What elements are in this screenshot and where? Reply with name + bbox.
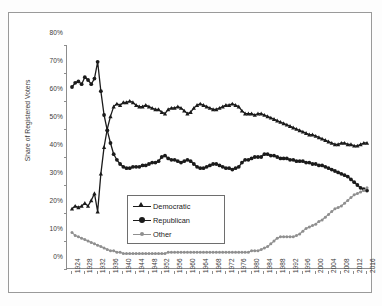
data-point [199,251,202,254]
data-point [89,198,93,202]
x-tick [315,271,316,274]
x-tick-label: 1984 [266,258,273,273]
y-tick [64,101,67,102]
data-point [253,249,256,252]
data-point [109,249,112,252]
chart-legend: Democratic Republican Other [127,195,225,244]
y-tick-label: 40% [29,141,63,148]
x-tick-label: 1940 [125,258,132,273]
triangle-marker-icon [132,201,152,211]
data-point [87,240,90,243]
data-point [80,82,84,86]
chart-page: 0%10%20%30%40%50%60%70%80% Share of Regi… [0,0,382,306]
y-tick [64,269,67,270]
data-point [83,75,87,79]
data-point [138,252,141,255]
data-point [224,251,227,254]
data-point [346,199,349,202]
data-point [119,251,122,254]
data-point [147,252,150,255]
data-point [240,161,244,165]
y-tick [64,45,67,46]
x-tick-label: 1972 [228,258,235,273]
x-tick-label: 1976 [240,258,247,273]
data-point [115,102,119,106]
data-point [311,224,314,227]
data-point [237,165,241,169]
x-tick-label: 2016 [369,258,376,273]
data-point [93,77,97,81]
data-point [330,210,333,213]
data-point [314,223,317,226]
x-tick [263,271,264,274]
data-point [176,105,180,109]
data-point [353,193,356,196]
data-point [102,145,106,149]
data-point [70,85,74,89]
legend-item-democratic: Democratic [132,199,224,213]
data-point [167,251,170,254]
circle-marker-icon [132,215,152,225]
y-tick [64,73,67,74]
data-point [92,191,96,195]
data-point [144,103,148,107]
y-tick [64,241,67,242]
data-point [74,234,77,237]
data-point [266,245,269,248]
data-point [157,159,161,163]
data-point [118,162,122,166]
y-tick-label: 80% [29,29,63,36]
data-point [317,220,320,223]
data-point [202,251,205,254]
legend-label-democratic: Democratic [152,202,190,211]
x-tick [366,271,367,274]
data-point [115,158,119,162]
data-point [228,251,231,254]
x-tick-label: 1948 [151,258,158,273]
x-tick [199,271,200,274]
x-tick-label: 1964 [202,258,209,273]
data-point [279,235,282,238]
data-point [80,237,83,240]
x-tick [328,271,329,274]
data-point [189,251,192,254]
y-tick [64,129,67,130]
data-point [163,252,166,255]
data-point [198,102,202,106]
data-point [103,247,106,250]
data-point [366,186,369,189]
legend-label-other: Other [152,230,171,239]
x-tick [71,271,72,274]
data-point [99,172,103,176]
data-point [263,247,266,250]
data-point [176,251,179,254]
data-point [259,155,263,159]
data-point [96,244,99,247]
y-tick-label: 0% [29,253,63,260]
data-point [154,252,157,255]
data-point [250,249,253,252]
data-point [285,235,288,238]
data-point [230,102,234,106]
data-point [189,159,193,163]
data-point [355,183,359,187]
data-point [218,251,221,254]
data-point [292,235,295,238]
data-point [349,196,352,199]
data-point [93,242,96,245]
data-point [151,252,154,255]
data-point [208,251,211,254]
x-tick-label: 1980 [253,258,260,273]
data-point [356,192,359,195]
data-point [90,241,93,244]
data-point [86,78,90,82]
x-tick [276,271,277,274]
data-point [83,238,86,241]
data-point [295,234,298,237]
data-point [112,152,116,156]
data-point [349,178,353,182]
data-point [96,60,100,64]
data-point [144,252,147,255]
data-point [71,231,74,234]
legend-label-republican: Republican [152,216,190,225]
